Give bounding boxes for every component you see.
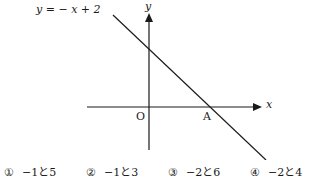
choice-text: −1と3 bbox=[104, 166, 138, 179]
choice-3[interactable]: ③−2と6 bbox=[168, 165, 220, 181]
origin-label: O bbox=[136, 111, 145, 122]
equation-label: y = − x + 2 bbox=[36, 4, 101, 15]
point-a-label: A bbox=[203, 111, 211, 122]
choice-1[interactable]: ①−1と5 bbox=[4, 165, 56, 181]
graph-svg bbox=[0, 0, 317, 160]
answer-choices: ①−1と5 ②−1と3 ③−2と6 ④−2と4 bbox=[0, 165, 317, 181]
choice-number: ② bbox=[86, 165, 96, 181]
choice-text: −2と4 bbox=[268, 166, 302, 179]
choice-number: ① bbox=[4, 165, 14, 181]
coordinate-graph: y = − x + 2 y x O A bbox=[0, 0, 317, 160]
choice-number: ③ bbox=[168, 165, 178, 181]
choice-text: −1と5 bbox=[22, 166, 56, 179]
y-axis-arrow-icon bbox=[145, 13, 153, 22]
x-axis-arrow-icon bbox=[253, 103, 262, 111]
function-line bbox=[113, 15, 266, 160]
y-axis-label: y bbox=[145, 1, 151, 12]
x-axis-label: x bbox=[266, 99, 272, 110]
choice-number: ④ bbox=[250, 165, 260, 181]
choice-2[interactable]: ②−1と3 bbox=[86, 165, 138, 181]
choice-text: −2と6 bbox=[186, 166, 220, 179]
choice-4[interactable]: ④−2と4 bbox=[250, 165, 302, 181]
